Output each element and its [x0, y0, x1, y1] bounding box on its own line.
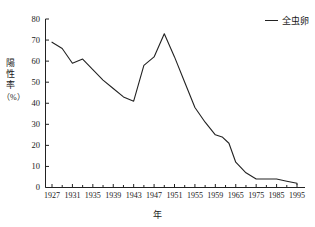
y-tick-label: 50 [18, 78, 40, 87]
y-tick-label: 80 [18, 15, 40, 24]
data-series-line-all-eggs [52, 34, 297, 185]
y-tick-label: 70 [18, 36, 40, 45]
chart-container: 陽 性 率 （%） 年 全虫卵 01020304050607080 192719… [0, 0, 315, 227]
y-tick-label: 40 [18, 99, 40, 108]
y-tick-marks [46, 19, 50, 188]
y-tick-label: 20 [18, 141, 40, 150]
y-tick-label: 0 [18, 183, 40, 192]
x-tick-marks [52, 184, 297, 188]
y-tick-label: 60 [18, 57, 40, 66]
y-tick-label: 10 [18, 162, 40, 171]
x-tick-label: 1995 [284, 192, 310, 200]
y-tick-label: 30 [18, 120, 40, 129]
